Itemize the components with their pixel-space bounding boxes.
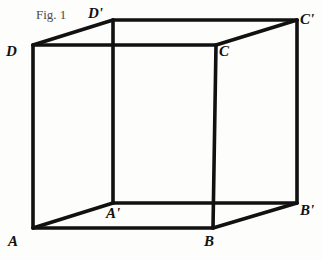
edge-D-D1 bbox=[33, 20, 113, 45]
edge-C-C1 bbox=[216, 20, 297, 45]
vertex-label-d: D bbox=[6, 44, 17, 59]
edge-C-B bbox=[213, 45, 216, 228]
vertex-label-a-prime: A' bbox=[106, 206, 120, 221]
figure-container: Fig. 1 A B C D A' B' C' D' bbox=[0, 0, 322, 260]
vertex-label-d-prime: D' bbox=[88, 6, 103, 21]
cube-wireframe-diagram bbox=[0, 0, 322, 260]
vertex-label-c-prime: C' bbox=[300, 12, 314, 27]
vertex-label-a: A bbox=[8, 234, 18, 249]
edge-B-B1 bbox=[213, 203, 297, 228]
vertex-label-b: B bbox=[204, 234, 214, 249]
vertex-label-b-prime: B' bbox=[300, 203, 314, 218]
cube-edge-group bbox=[33, 20, 297, 228]
edge-A-A1 bbox=[33, 203, 113, 228]
vertex-label-c: C bbox=[219, 44, 229, 59]
figure-caption: Fig. 1 bbox=[36, 8, 66, 21]
